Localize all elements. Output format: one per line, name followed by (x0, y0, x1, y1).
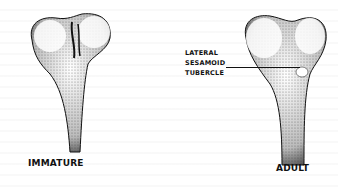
lateral-sesamoid-tubercle-label: LATERAL SESAMOID TUBERCLE (185, 48, 225, 78)
callout-line-3: TUBERCLE (185, 68, 225, 78)
callout-line-2: SESAMOID (185, 58, 225, 68)
immature-label: IMMATURE (28, 158, 84, 168)
callout-leader-line (226, 67, 300, 68)
adult-label: ADULT (276, 163, 309, 173)
immature-bone-illustration (20, 12, 120, 157)
adult-bone-illustration (240, 10, 332, 168)
callout-line-1: LATERAL (185, 48, 225, 58)
